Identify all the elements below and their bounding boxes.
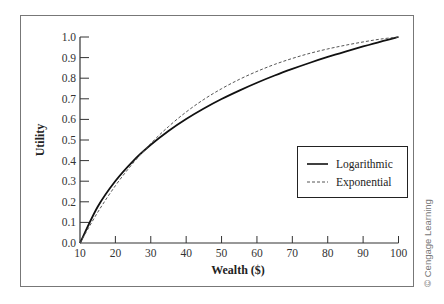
y-tick-label: 0.3 (62, 175, 77, 187)
y-ticks: 0.00.10.20.30.40.50.60.70.80.91.0 (62, 31, 89, 249)
y-tick-label: 0.4 (62, 155, 77, 167)
y-tick-label: 0.6 (62, 113, 77, 125)
x-tick-label: 20 (110, 247, 122, 259)
legend-box (298, 147, 408, 198)
legend-label-exponential: Exponential (336, 176, 392, 189)
y-tick-label: 0.2 (62, 196, 77, 208)
x-tick-label: 70 (287, 247, 299, 259)
legend-label-logarithmic: Logarithmic (336, 158, 393, 171)
x-tick-label: 50 (216, 247, 228, 259)
y-tick-label: 0.9 (62, 52, 77, 64)
series-line-exponential (80, 37, 399, 243)
y-axis-title: Utility (33, 124, 47, 157)
series-lines (80, 37, 399, 243)
axes (80, 37, 399, 243)
y-tick-label: 0.7 (62, 93, 77, 105)
x-tick-label: 100 (390, 247, 408, 259)
x-tick-label: 80 (322, 247, 334, 259)
y-tick-label: 0.0 (62, 237, 77, 249)
x-axis-title: Wealth ($) (211, 263, 265, 277)
x-tick-label: 90 (357, 247, 369, 259)
x-ticks: 102030405060708090100 (74, 236, 407, 259)
x-tick-label: 30 (145, 247, 157, 259)
x-tick-label: 60 (251, 247, 263, 259)
y-tick-label: 1.0 (62, 31, 77, 43)
y-tick-label: 0.1 (62, 216, 77, 228)
x-tick-label: 40 (180, 247, 192, 259)
credit-text: © Cengage Learning (422, 199, 433, 287)
y-tick-label: 0.5 (62, 134, 77, 146)
x-tick-label: 10 (74, 247, 86, 259)
y-tick-label: 0.8 (62, 72, 77, 84)
utility-chart: 102030405060708090100 0.00.10.20.30.40.5… (0, 0, 444, 304)
series-line-logarithmic (80, 37, 399, 243)
legend: Logarithmic Exponential (298, 147, 408, 198)
